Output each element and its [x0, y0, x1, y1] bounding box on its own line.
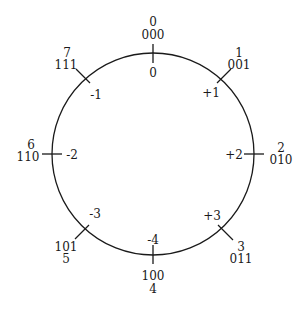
signed-label: 0 [149, 66, 157, 80]
bits-label: 000 [142, 28, 165, 42]
unsigned-label: 5 [62, 252, 70, 266]
position-4: 4 100 -4 [142, 233, 165, 296]
signed-label: -2 [66, 148, 78, 162]
bits-label: 100 [142, 269, 165, 283]
bits-label: 010 [270, 153, 293, 167]
number-wheel-diagram: 0 000 0 1 001 +1 2 010 +2 3 011 +3 4 100… [0, 0, 306, 312]
signed-label: -3 [89, 207, 101, 221]
bits-label: 111 [55, 58, 78, 72]
bits-label: 101 [55, 240, 78, 254]
signed-label: +3 [203, 209, 221, 223]
tick-5 [75, 225, 89, 239]
signed-label: +2 [225, 148, 243, 162]
tick-3 [218, 225, 233, 240]
bits-label: 001 [228, 58, 251, 72]
signed-label: +1 [202, 86, 220, 100]
wheel-circle [52, 53, 254, 255]
position-7: 7 111 -1 [55, 46, 102, 102]
signed-label: -4 [147, 233, 159, 247]
unsigned-label: 0 [149, 15, 157, 29]
position-6: 6 110 -2 [17, 138, 78, 164]
bits-label: 011 [230, 252, 253, 266]
signed-label: -1 [90, 88, 102, 102]
bits-label: 110 [17, 150, 40, 164]
unsigned-label: 4 [149, 282, 157, 296]
